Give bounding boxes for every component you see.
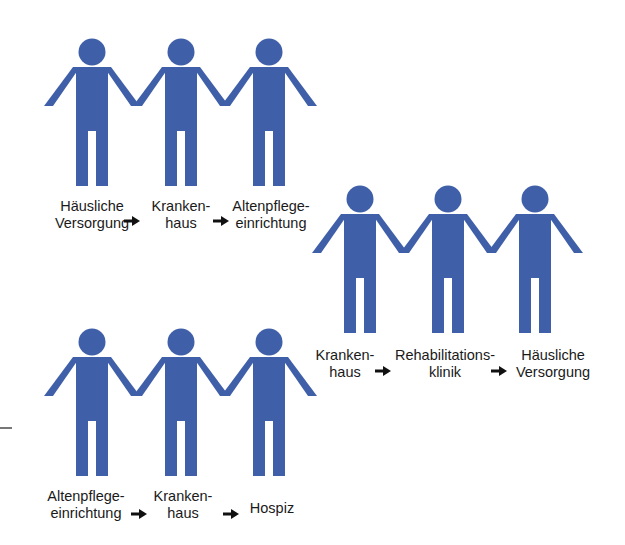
margin-mark — [0, 427, 12, 429]
step-label-line: Kranken- — [316, 347, 375, 364]
person-icon — [42, 30, 142, 190]
step-label: Altenpflege- einrichtung — [47, 488, 124, 522]
person-icon — [310, 177, 410, 337]
person-icon — [398, 177, 498, 337]
step-label-line: Kranken- — [152, 198, 211, 215]
step-label: Kranken- haus — [154, 488, 213, 522]
step-label: Häusliche Versorgung — [55, 198, 129, 232]
step-label-line: einrichtung — [47, 505, 124, 522]
arrow-right-icon — [124, 212, 140, 222]
step-label-line: klinik — [395, 364, 495, 381]
step-label-line: Versorgung — [55, 215, 129, 232]
step-label-line: Altenpflege- — [232, 198, 309, 215]
step-label-line: Altenpflege- — [47, 488, 124, 505]
step-label-line: Häusliche — [55, 198, 129, 215]
step-label-line: Kranken- — [154, 488, 213, 505]
step-label: Kranken- haus — [316, 347, 375, 381]
step-label-line: haus — [316, 364, 375, 381]
person-icon — [131, 320, 231, 480]
arrow-right-icon — [375, 362, 391, 372]
step-label-line: Versorgung — [516, 364, 590, 381]
arrow-right-icon — [491, 362, 507, 372]
step-label-line: Häusliche — [516, 347, 590, 364]
step-label: Rehabilitations- klinik — [395, 347, 495, 381]
person-icon — [219, 30, 319, 190]
step-label: Hospiz — [250, 500, 294, 517]
step-label: Kranken- haus — [152, 198, 211, 232]
person-icon — [485, 177, 585, 337]
arrow-right-icon — [223, 505, 239, 515]
person-icon — [131, 30, 231, 190]
person-icon — [42, 320, 142, 480]
step-label-line: Rehabilitations- — [395, 347, 495, 364]
step-label-line: haus — [152, 215, 211, 232]
step-label-line: haus — [154, 505, 213, 522]
arrow-right-icon — [131, 505, 147, 515]
step-label: Altenpflege- einrichtung — [232, 198, 309, 232]
step-label-line: Hospiz — [250, 500, 294, 517]
step-label-line: einrichtung — [232, 215, 309, 232]
step-label: Häusliche Versorgung — [516, 347, 590, 381]
person-icon — [219, 320, 319, 480]
arrow-right-icon — [213, 212, 229, 222]
